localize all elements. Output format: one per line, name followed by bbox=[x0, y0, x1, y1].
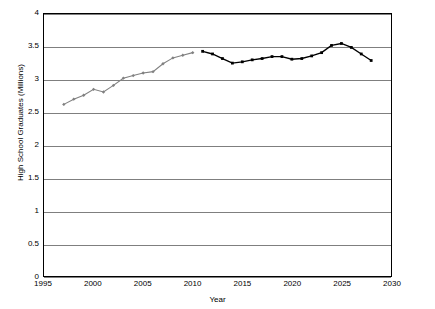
data-point-marker bbox=[132, 74, 135, 77]
y-axis-tick-label: 0.5 bbox=[5, 240, 39, 248]
y-axis-tick-label: 1.5 bbox=[5, 174, 39, 182]
data-point-marker bbox=[271, 55, 274, 58]
data-point-marker bbox=[340, 42, 343, 45]
y-axis-tick-label: 4 bbox=[5, 9, 39, 17]
x-axis-tick-label: 2015 bbox=[222, 280, 262, 288]
data-series bbox=[62, 51, 194, 106]
x-axis-tick-label: 2005 bbox=[123, 280, 163, 288]
data-point-marker bbox=[300, 57, 303, 60]
x-axis-tick-label: 2025 bbox=[322, 280, 362, 288]
data-point-marker bbox=[261, 57, 264, 60]
gridline bbox=[44, 277, 391, 278]
data-point-marker bbox=[350, 46, 353, 49]
data-point-marker bbox=[310, 55, 313, 58]
data-point-marker bbox=[320, 51, 323, 54]
y-axis-tick-label: 3.5 bbox=[5, 42, 39, 50]
data-point-marker bbox=[370, 59, 373, 62]
data-point-marker bbox=[330, 44, 333, 47]
y-axis-tick-label: 1 bbox=[5, 207, 39, 215]
x-axis-title: Year bbox=[0, 295, 435, 304]
data-point-marker bbox=[141, 71, 144, 74]
y-axis-tick-label: 2 bbox=[5, 141, 39, 149]
data-point-marker bbox=[290, 58, 293, 61]
y-axis-tick-label: 2.5 bbox=[5, 108, 39, 116]
x-axis-tick-label: 2010 bbox=[173, 280, 213, 288]
data-point-marker bbox=[360, 53, 363, 56]
data-series bbox=[201, 42, 372, 64]
data-point-marker bbox=[231, 62, 234, 65]
x-axis-tick-label: 2020 bbox=[272, 280, 312, 288]
y-axis-tick-label: 3 bbox=[5, 75, 39, 83]
data-point-marker bbox=[221, 57, 224, 60]
series-line bbox=[203, 43, 372, 63]
series-canvas bbox=[44, 14, 391, 276]
data-point-marker bbox=[201, 50, 204, 53]
data-point-marker bbox=[251, 58, 254, 61]
plot-area bbox=[43, 13, 392, 277]
chart-container: High School Graduates (Millions) 00.511.… bbox=[0, 0, 435, 309]
x-axis-tick-label: 2000 bbox=[73, 280, 113, 288]
x-axis-tick-label: 1995 bbox=[23, 280, 63, 288]
x-axis-tick-label: 2030 bbox=[372, 280, 412, 288]
series-line bbox=[64, 53, 193, 105]
data-point-marker bbox=[211, 53, 214, 56]
data-point-marker bbox=[181, 54, 184, 57]
data-point-marker bbox=[191, 51, 194, 54]
data-point-marker bbox=[241, 60, 244, 63]
data-point-marker bbox=[281, 55, 284, 58]
